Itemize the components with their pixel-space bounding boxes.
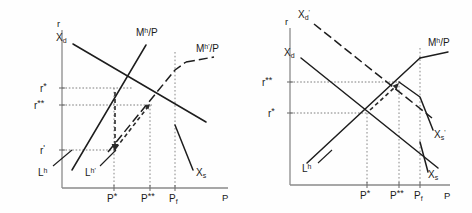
curve-label-xdp-right: Xd' xyxy=(298,9,310,21)
curve-lh-mh-right xyxy=(307,58,420,163)
y-axis-label-right: r xyxy=(285,16,288,27)
tick-label-r-prime-left: r' xyxy=(40,143,45,156)
curve-label-xsp-right: Xs' xyxy=(434,129,446,141)
tick-label-p-star-left: P* xyxy=(107,191,118,204)
curve-mhp-p-flat-left xyxy=(186,57,214,62)
tick-label-r-starstar-left: r** xyxy=(34,98,45,111)
curve-label-mh-p-left: Mh/P xyxy=(136,27,158,38)
curve-label-xd-left: Xd xyxy=(56,32,67,44)
tick-label-pf-left: Pf xyxy=(169,193,178,205)
arrow-diagonal-right xyxy=(370,88,394,110)
tick-label-pf-right: Pf xyxy=(414,190,423,202)
panel-left: r P Xd Mh/P Lh Lh' Mh'/P xyxy=(0,0,236,213)
curve-label-mh-p-right: Mh/P xyxy=(428,37,450,48)
curve-label-mhp-p-left: Mh'/P xyxy=(196,43,219,54)
curve-label-xd-right: Xd xyxy=(284,47,295,59)
curve-label-xs-right: Xs xyxy=(428,169,439,181)
tick-label-p-starstar-left: P** xyxy=(141,191,155,204)
curve-mh-p-flat-right xyxy=(420,52,448,58)
curve-xs-left xyxy=(175,125,193,170)
economics-diagram-figure: r P Xd Mh/P Lh Lh' Mh'/P xyxy=(0,0,472,213)
y-axis-label-left: r xyxy=(57,18,60,29)
curve-xs-right xyxy=(420,142,428,172)
tick-label-r-star-left: r* xyxy=(40,81,47,94)
curve-label-lhp-left: Lh' xyxy=(85,167,96,178)
leader-lh-right xyxy=(318,150,332,163)
x-axis-label-left: P xyxy=(222,192,228,203)
x-axis-label-right: P xyxy=(444,190,450,201)
tick-label-p-starstar-right: P** xyxy=(390,188,404,201)
tick-label-r-starstar-right: r** xyxy=(262,75,273,88)
arrow-diagonal-left xyxy=(116,108,147,148)
tick-label-p-star-right: P* xyxy=(360,188,371,201)
curve-label-lh-right: Lh xyxy=(302,163,312,174)
curve-label-lh-left: Lh xyxy=(38,167,48,178)
panel-right: r P Xd Xd' Mh/P Lh Xs' Xs xyxy=(236,0,472,213)
tick-label-r-star-right: r* xyxy=(268,106,275,119)
curve-xdp-right xyxy=(314,24,432,118)
curve-label-xs-left: Xs xyxy=(196,167,207,179)
